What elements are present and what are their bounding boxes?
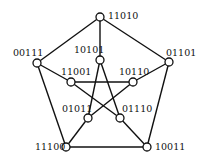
node-10110 [129, 78, 137, 86]
node-label-10011: 10011 [155, 141, 185, 152]
node-label-01110: 01110 [122, 103, 152, 114]
node-01011 [84, 114, 92, 122]
edges-group [37, 17, 169, 147]
node-01110 [116, 114, 124, 122]
node-label-01011: 01011 [62, 103, 92, 114]
node-label-01101: 01101 [166, 47, 196, 58]
node-01101 [165, 58, 173, 66]
node-11001 [67, 78, 75, 86]
node-label-11100: 11100 [35, 141, 65, 152]
edge-11100-01011 [66, 118, 88, 147]
node-10101 [96, 56, 104, 64]
node-label-10101: 10101 [74, 44, 104, 55]
labels-group: 1101000111011011110010011101011100110110… [13, 10, 196, 152]
petersen-graph: 1101000111011011110010011101011100110110… [0, 0, 202, 165]
node-00111 [33, 59, 41, 67]
node-10011 [143, 143, 151, 151]
edge-10011-01110 [120, 118, 147, 147]
edge-00111-11010 [37, 17, 100, 63]
node-label-11001: 11001 [61, 66, 91, 77]
node-label-11010: 11010 [108, 10, 138, 21]
node-11010 [96, 13, 104, 21]
node-label-00111: 00111 [13, 47, 43, 58]
edge-10101-01110 [100, 60, 120, 118]
node-label-10110: 10110 [119, 66, 149, 77]
edge-11010-01101 [100, 17, 169, 62]
